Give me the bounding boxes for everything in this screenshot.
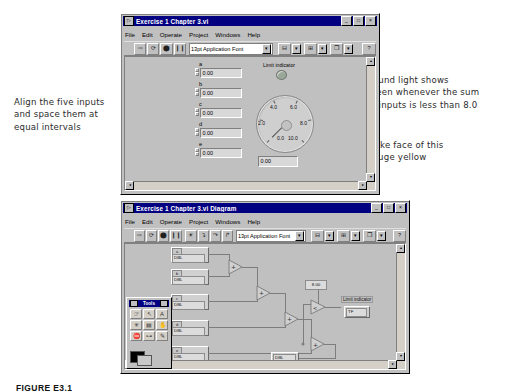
- front-panel-vscrollbar[interactable]: ▴ ▾: [366, 57, 375, 190]
- reorder-group[interactable]: ❐ ▾: [330, 43, 353, 55]
- scroll-right-icon[interactable]: ▸: [358, 181, 367, 190]
- numeric-control-b[interactable]: 0.00: [200, 88, 242, 98]
- pin-icon[interactable]: [130, 300, 138, 307]
- reorder-icon[interactable]: ❐: [330, 43, 343, 55]
- tools-palette[interactable]: Tools ☞ ↖ A ✳ ▤ ✋ ⛔ ⊶ ✎: [126, 297, 172, 369]
- numeric-control-e[interactable]: 0.00: [200, 148, 242, 158]
- scroll-down-icon[interactable]: ▾: [366, 173, 375, 182]
- menu-help[interactable]: Help: [247, 218, 260, 225]
- connect-wire-icon[interactable]: ✳: [130, 320, 142, 330]
- background-color-swatch[interactable]: [137, 355, 152, 366]
- align-objects-group[interactable]: ⊟ ▾: [278, 43, 301, 55]
- menu-windows[interactable]: Windows: [215, 218, 240, 225]
- align-chevron-down-icon[interactable]: ▾: [325, 231, 334, 241]
- reorder-chevron-down-icon[interactable]: ▾: [344, 44, 353, 54]
- scroll-up-icon[interactable]: ▴: [396, 244, 405, 253]
- set-breakpoint-icon[interactable]: ⛔: [130, 331, 142, 341]
- scroll-left-icon[interactable]: ◂: [125, 181, 134, 190]
- chevron-down-icon[interactable]: ▾: [295, 231, 304, 241]
- run-continuous-icon[interactable]: ⟳: [146, 230, 157, 242]
- position-size-icon[interactable]: ↖: [143, 309, 155, 319]
- abort-icon[interactable]: ⬤: [158, 230, 169, 242]
- font-selector[interactable]: 13pt Application Font ▾: [189, 43, 273, 55]
- distribute-chevron-down-icon[interactable]: ▾: [318, 44, 327, 54]
- minimize-button[interactable]: _: [341, 16, 352, 26]
- run-arrow-icon[interactable]: ⇨: [134, 230, 145, 242]
- menu-help[interactable]: Help: [247, 31, 260, 38]
- reorder-icon[interactable]: ❐: [363, 230, 376, 242]
- maximize-button[interactable]: □: [353, 16, 364, 26]
- front-panel-menubar[interactable]: File Edit Operate Project Windows Help: [125, 29, 375, 39]
- align-objects-icon[interactable]: ⊟: [278, 43, 291, 55]
- distribute-objects-group[interactable]: ⊞ ▾: [337, 230, 360, 242]
- context-help-icon[interactable]: ?: [362, 43, 376, 55]
- numeric-control-d[interactable]: 0.00: [200, 128, 242, 138]
- block-diagram-window-buttons[interactable]: _ □ ×: [371, 203, 406, 213]
- increment-decrement-b[interactable]: [195, 88, 199, 96]
- numeric-control-a[interactable]: 0.00: [200, 68, 242, 78]
- highlight-execution-icon[interactable]: ☀: [185, 230, 196, 242]
- align-chevron-down-icon[interactable]: ▾: [292, 44, 301, 54]
- increment-decrement-d[interactable]: [195, 128, 199, 136]
- front-panel-hscrollbar[interactable]: ◂ ▸: [125, 181, 367, 190]
- align-objects-group[interactable]: ⊟ ▾: [311, 230, 334, 242]
- scroll-down-icon[interactable]: ▾: [396, 352, 405, 361]
- scroll-up-icon[interactable]: ▴: [366, 57, 375, 66]
- menu-file[interactable]: File: [125, 218, 135, 225]
- close-button[interactable]: ×: [395, 203, 406, 213]
- edit-text-icon[interactable]: A: [156, 309, 168, 319]
- close-icon[interactable]: [160, 300, 168, 307]
- pause-icon[interactable]: ❙❙: [170, 230, 182, 242]
- front-panel-window-buttons[interactable]: _ □ ×: [341, 16, 376, 26]
- menu-edit[interactable]: Edit: [142, 218, 153, 225]
- front-panel-titlebar[interactable]: ▷ Exercise 1 Chapter 3.vi _ □ ×: [123, 16, 377, 26]
- chevron-down-icon[interactable]: ▾: [262, 44, 271, 54]
- run-arrow-icon[interactable]: ⇨: [134, 43, 146, 55]
- menu-operate[interactable]: Operate: [160, 31, 182, 38]
- numeric-constant[interactable]: 8.00: [305, 280, 327, 290]
- limit-indicator-terminal[interactable]: TF: [344, 306, 370, 318]
- menu-file[interactable]: File: [125, 31, 135, 38]
- menu-project[interactable]: Project: [189, 31, 208, 38]
- tools-palette-colors[interactable]: [130, 351, 168, 365]
- menu-operate[interactable]: Operate: [160, 218, 182, 225]
- front-panel-canvas[interactable]: a 0.00 b 0.00 c 0.00 d 0.00 e 0.00 Limit…: [124, 56, 376, 191]
- align-objects-icon[interactable]: ⊟: [311, 230, 324, 242]
- block-diagram-titlebar[interactable]: ▷ Exercise 1 Chapter 3.vi Diagram _ □ ×: [123, 203, 407, 213]
- minimize-button[interactable]: _: [371, 203, 382, 213]
- step-out-icon[interactable]: ↱: [222, 230, 233, 242]
- distribute-chevron-down-icon[interactable]: ▾: [351, 231, 360, 241]
- get-color-icon[interactable]: ✎: [156, 331, 168, 341]
- increment-decrement-e[interactable]: [195, 148, 199, 156]
- distribute-objects-icon[interactable]: ⊞: [304, 43, 317, 55]
- abort-icon[interactable]: ⬤: [160, 43, 172, 55]
- block-diagram-toolbar[interactable]: ⇨ ⟳ ⬤ ❙❙ ☀ ↴ ↷ ↱ 13pt Application Font ▾…: [124, 228, 406, 243]
- increment-decrement-c[interactable]: [195, 108, 199, 116]
- pause-icon[interactable]: ❙❙: [174, 43, 186, 55]
- increment-decrement-a[interactable]: [195, 68, 199, 76]
- menu-windows[interactable]: Windows: [215, 31, 240, 38]
- run-continuous-icon[interactable]: ⟳: [147, 43, 159, 55]
- numeric-control-c[interactable]: 0.00: [200, 108, 242, 118]
- menu-project[interactable]: Project: [189, 218, 208, 225]
- step-over-icon[interactable]: ↷: [210, 230, 221, 242]
- operate-value-icon[interactable]: ☞: [130, 309, 142, 319]
- close-button[interactable]: ×: [365, 16, 376, 26]
- probe-data-icon[interactable]: ⊶: [143, 331, 155, 341]
- gauge-digital-display[interactable]: 0.00: [258, 156, 298, 167]
- limit-indicator-led[interactable]: [276, 70, 287, 80]
- front-panel-window[interactable]: ▷ Exercise 1 Chapter 3.vi _ □ × File Edi…: [120, 13, 380, 195]
- gauge-dial[interactable]: 0.0 2.0 4.0 6.0 8.0 10.0: [256, 95, 314, 153]
- step-into-icon[interactable]: ↴: [198, 230, 209, 242]
- object-shortcut-menu-icon[interactable]: ▤: [143, 320, 155, 330]
- font-selector[interactable]: 13pt Application Font ▾: [236, 230, 306, 242]
- maximize-button[interactable]: □: [383, 203, 394, 213]
- distribute-objects-group[interactable]: ⊞ ▾: [304, 43, 327, 55]
- scroll-window-icon[interactable]: ✋: [156, 320, 168, 330]
- front-panel-toolbar[interactable]: ⇨ ⟳ ⬤ ❙❙ 13pt Application Font ▾ ⊟ ▾ ⊞ ▾…: [124, 41, 376, 56]
- block-diagram-menubar[interactable]: File Edit Operate Project Windows Help: [125, 216, 405, 226]
- reorder-group[interactable]: ❐ ▾: [363, 230, 386, 242]
- block-diagram-vscrollbar[interactable]: ▴ ▾: [396, 244, 405, 369]
- distribute-objects-icon[interactable]: ⊞: [337, 230, 350, 242]
- scroll-right-icon[interactable]: ▸: [388, 360, 397, 369]
